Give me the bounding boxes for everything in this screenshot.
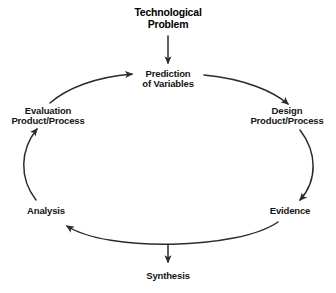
node-prediction-line-2: of Variables: [142, 79, 194, 89]
connector-prediction-to-design: [204, 75, 288, 104]
node-design-line-2: Product/Process: [250, 116, 323, 126]
cycle-arrows-svg: [0, 0, 336, 293]
node-analysis: Analysis: [27, 206, 65, 216]
node-evidence-line-1: Evidence: [270, 205, 311, 216]
node-synthesis: Synthesis: [146, 271, 190, 281]
connector-evaluation-to-prediction: [50, 74, 132, 103]
node-analysis-line-1: Analysis: [27, 205, 65, 216]
technological-problem-cycle-diagram: Technological Problem Predict: [0, 0, 336, 293]
node-evidence: Evidence: [270, 206, 311, 216]
connector-design-to-evidence: [300, 130, 313, 200]
node-prediction-of-variables: Prediction of Variables: [142, 69, 194, 90]
connector-evidence-to-analysis: [67, 222, 278, 244]
connector-analysis-to-evaluation: [24, 129, 37, 200]
node-synthesis-line-1: Synthesis: [146, 270, 190, 281]
node-evaluation-line-2: Product/Process: [11, 116, 84, 126]
node-design-product-process: Design Product/Process: [250, 106, 323, 127]
node-evaluation-product-process: Evaluation Product/Process: [11, 106, 84, 127]
